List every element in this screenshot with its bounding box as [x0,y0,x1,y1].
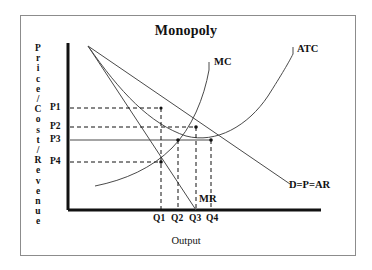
price-tick-p1: P1 [50,103,61,113]
price-tick-p2: P2 [50,122,61,132]
mr-curve-label: MR [199,194,217,205]
mc-curve [95,70,209,186]
quantity-tick-q1: Q1 [153,214,165,224]
atc-curve-label: ATC [297,44,318,55]
mr-curve [88,46,196,210]
quantity-tick-q4: Q4 [206,214,218,224]
point-p1-q1 [159,106,162,109]
mc-curve-label: MC [214,57,232,68]
quantity-tick-q2: Q2 [171,214,183,224]
x-axis-title: Output [0,236,372,247]
demand-curve [88,46,290,184]
point-p2-q3 [194,125,198,129]
quantity-tick-q3: Q3 [189,214,201,224]
price-tick-p3: P3 [50,135,61,145]
price-tick-p4: P4 [50,157,61,167]
demand-curve-label: D=P=AR [289,180,330,191]
point-p4-q1 [159,160,163,164]
point-p3-q4 [209,138,213,142]
point-p3-q2 [176,138,180,142]
monopoly-diagram: Monopoly P r i c e / C o s t / R e v e n… [0,0,372,270]
